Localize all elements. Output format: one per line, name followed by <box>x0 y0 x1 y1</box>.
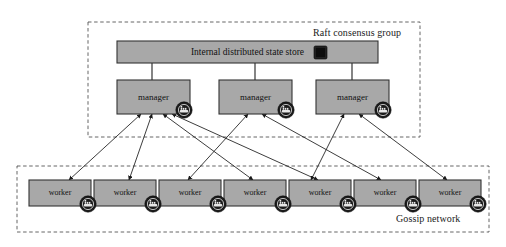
docker-whale-icon-worker-4 <box>275 196 291 212</box>
link-m3-w7 <box>359 114 447 180</box>
diagram-canvas: Raft consensus group Gossip network Inte… <box>0 0 506 247</box>
diagram-svg <box>0 0 506 247</box>
store-manager-connectors <box>152 63 352 80</box>
database-icon-group <box>314 46 327 59</box>
docker-whale-icon-worker-3 <box>210 196 226 212</box>
docker-whale-icon-manager-2 <box>278 102 294 118</box>
link-m1-w2 <box>129 114 152 180</box>
manager-worker-links <box>69 114 447 180</box>
docker-whale-icon-worker-1 <box>80 196 96 212</box>
docker-whale-icon-manager-3 <box>375 102 391 118</box>
link-m1-w1 <box>69 114 141 180</box>
docker-whale-icon-worker-2 <box>145 196 161 212</box>
link-m1-w5 <box>172 114 318 180</box>
docker-whale-icon-worker-6 <box>405 196 421 212</box>
link-m3-w5 <box>311 114 344 180</box>
state-store-box <box>117 41 378 63</box>
docker-whale-icon-manager-1 <box>176 102 192 118</box>
docker-whale-icon-worker-5 <box>340 196 356 212</box>
link-m2-w6 <box>262 114 381 180</box>
raft-group-label: Raft consensus group <box>313 27 401 38</box>
database-icon-inner <box>316 48 325 57</box>
docker-whale-icon-worker-7 <box>470 196 486 212</box>
gossip-group-label: Gossip network <box>396 213 460 224</box>
